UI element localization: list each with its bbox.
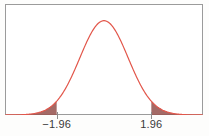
distribution-curve-plot <box>5 4 203 115</box>
normal-distribution-figure: −1.96 1.96 <box>0 0 209 136</box>
tick-label-lower-critical: −1.96 <box>33 118 81 131</box>
bell-curve-line <box>5 21 203 115</box>
tick-label-upper-critical: 1.96 <box>129 118 173 131</box>
